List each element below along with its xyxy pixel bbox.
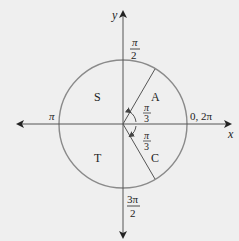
y-axis-label: y — [111, 8, 118, 22]
unit-circle-diagram: y x π 2 π 0, 2π 3π 2 S A T C π 3 π 3 — [0, 0, 239, 241]
ref-angle-upper-den: 3 — [144, 113, 149, 124]
quadrant-label-c: C — [151, 151, 159, 165]
angle-arc-upper — [130, 112, 136, 122]
ref-angle-upper-num: π — [144, 102, 150, 113]
angle-arc-lower — [130, 126, 136, 136]
ref-angle-lower-den: 3 — [144, 141, 149, 152]
ref-angle-lower-num: π — [144, 130, 150, 141]
quadrant-label-s: S — [94, 90, 101, 104]
quadrant-label-t: T — [94, 151, 102, 165]
label-pi: π — [49, 110, 55, 122]
label-pi-over-2-den: 2 — [131, 49, 137, 61]
x-axis-label: x — [227, 127, 234, 141]
label-pi-over-2-num: π — [132, 36, 138, 48]
quadrant-label-a: A — [151, 90, 160, 104]
label-3pi-over-2-num: 3π — [127, 193, 139, 205]
label-3pi-over-2-den: 2 — [130, 207, 136, 219]
label-zero-two-pi: 0, 2π — [190, 110, 213, 122]
